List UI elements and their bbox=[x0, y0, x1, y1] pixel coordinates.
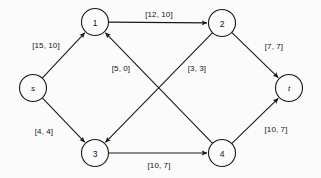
edge-1-2 bbox=[109, 22, 208, 23]
node-3: 3 bbox=[82, 140, 109, 167]
edge-label-3-4: [10, 7] bbox=[148, 161, 171, 170]
node-label-4: 4 bbox=[220, 149, 225, 159]
node-s: s bbox=[20, 75, 47, 102]
node-label-3: 3 bbox=[93, 149, 98, 159]
flow-network-figure: s1234t [15, 10][4, 4][12, 10][7, 7][5, 0… bbox=[0, 0, 321, 178]
edge-4-t bbox=[232, 98, 279, 143]
edge-label-s-1: [15, 10] bbox=[32, 41, 60, 50]
edge-label-s-3: [4, 4] bbox=[35, 127, 53, 136]
edge-label-1-2: [12, 10] bbox=[145, 10, 173, 19]
edge-2-t bbox=[232, 32, 279, 77]
edge-label-2-3: [5, 0] bbox=[112, 64, 130, 73]
node-2: 2 bbox=[209, 10, 236, 37]
node-label-s: s bbox=[31, 84, 35, 93]
graph-canvas: s1234t [15, 10][4, 4][12, 10][7, 7][5, 0… bbox=[0, 0, 321, 178]
nodes-layer: s1234t bbox=[20, 9, 303, 167]
node-t: t bbox=[276, 75, 303, 102]
node-4: 4 bbox=[209, 140, 236, 167]
edge-label-4-1: [3, 3] bbox=[188, 64, 206, 73]
node-label-2: 2 bbox=[220, 19, 225, 29]
node-label-1: 1 bbox=[93, 18, 98, 28]
edges-layer bbox=[42, 22, 278, 153]
edge-label-4-t: [10, 7] bbox=[265, 125, 288, 134]
node-1: 1 bbox=[82, 9, 109, 36]
edge-label-2-t: [7, 7] bbox=[265, 42, 283, 51]
